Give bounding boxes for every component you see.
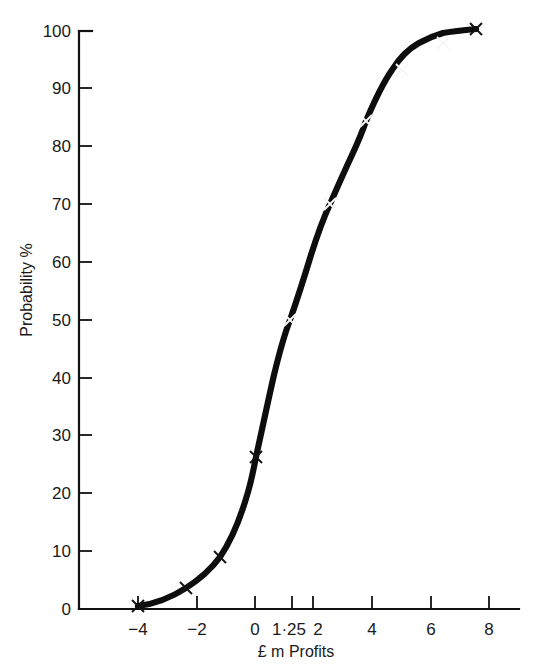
x-tick-label-8: 8 xyxy=(484,620,493,639)
x-tick-label-6: 6 xyxy=(426,620,435,639)
probability-profit-chart: 100 90 80 70 60 50 40 30 20 10 0 −4 −2 xyxy=(0,0,540,668)
x-tick-label-neg2: −2 xyxy=(187,620,206,639)
y-tick-label-90: 90 xyxy=(52,79,71,98)
x-axis-title: £ m Profits xyxy=(258,643,334,660)
y-tick-label-50: 50 xyxy=(52,311,71,330)
y-tick-label-100: 100 xyxy=(43,22,71,41)
x-tick-label-2: 2 xyxy=(313,620,322,639)
y-tick-label-0: 0 xyxy=(62,600,71,619)
chart-container: 100 90 80 70 60 50 40 30 20 10 0 −4 −2 xyxy=(0,0,540,668)
data-point-markers xyxy=(132,23,482,612)
data-point-marker xyxy=(396,64,408,76)
y-axis-tick-labels: 100 90 80 70 60 50 40 30 20 10 0 xyxy=(43,22,71,619)
y-tick-label-10: 10 xyxy=(52,542,71,561)
y-axis-ticks xyxy=(79,88,92,551)
axis-lines xyxy=(79,31,519,609)
y-tick-label-70: 70 xyxy=(52,195,71,214)
y-tick-label-40: 40 xyxy=(52,369,71,388)
y-tick-label-30: 30 xyxy=(52,426,71,445)
x-tick-label-4: 4 xyxy=(367,620,376,639)
y-tick-label-60: 60 xyxy=(52,253,71,272)
y-tick-label-20: 20 xyxy=(52,484,71,503)
x-tick-label-0: 0 xyxy=(250,620,259,639)
x-axis-ticks xyxy=(138,596,489,609)
y-axis-title: Probability % xyxy=(18,243,35,336)
data-point-marker xyxy=(437,37,449,49)
x-axis-tick-labels: −4 −2 0 1·25 2 4 6 8 xyxy=(128,620,493,639)
data-curve xyxy=(138,29,476,606)
x-tick-label-1-25: 1·25 xyxy=(272,620,306,639)
x-tick-label-neg4: −4 xyxy=(128,620,147,639)
y-tick-label-80: 80 xyxy=(52,137,71,156)
